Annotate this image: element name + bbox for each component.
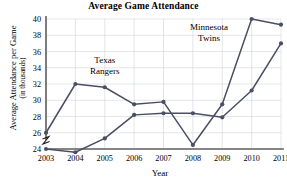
- y-tick-label: 26: [33, 129, 41, 138]
- x-tick-label: 2006: [126, 154, 142, 163]
- series-annotation-label: Twins: [198, 33, 220, 43]
- data-point-marker: [132, 102, 136, 106]
- x-tick-label: 2011: [273, 154, 287, 163]
- series-annotation-label: Rangers: [90, 66, 120, 76]
- data-point-marker: [73, 82, 77, 86]
- data-point-marker: [279, 23, 283, 27]
- chart-figure: Average Game Attendance Average Attendan…: [0, 0, 287, 188]
- x-tick-labels: 200320042005200620072008200920102011: [38, 154, 287, 163]
- y-axis-break-symbol: [43, 137, 50, 145]
- line-chart-plot: 242628303234363840 200320042005200620072…: [0, 0, 287, 188]
- data-point-marker: [161, 100, 165, 104]
- data-point-marker: [250, 88, 254, 92]
- data-point-marker: [161, 111, 165, 115]
- data-point-marker: [73, 150, 77, 154]
- x-tick-label: 2004: [67, 154, 83, 163]
- x-tick-label: 2009: [214, 154, 230, 163]
- data-point-marker: [44, 147, 48, 151]
- x-tick-label: 2003: [38, 154, 54, 163]
- data-point-marker: [103, 85, 107, 89]
- data-point-marker: [220, 102, 224, 106]
- y-tick-label: 38: [33, 31, 41, 40]
- data-point-marker: [191, 143, 195, 147]
- series-annotation-label: Minnesota: [190, 22, 228, 32]
- x-tick-label: 2010: [243, 154, 259, 163]
- data-point-marker: [250, 17, 254, 21]
- data-point-marker: [191, 111, 195, 115]
- y-tick-label: 24: [33, 145, 41, 154]
- x-tick-label: 2007: [155, 154, 171, 163]
- x-tick-label: 2005: [97, 154, 113, 163]
- y-tick-label: 28: [33, 113, 41, 122]
- y-tick-label: 34: [33, 64, 41, 73]
- data-point-marker: [132, 113, 136, 117]
- data-point-marker: [103, 136, 107, 140]
- y-tick-labels: 242628303234363840: [33, 15, 41, 154]
- x-tick-label: 2008: [185, 154, 201, 163]
- y-tick-label: 36: [33, 48, 41, 57]
- y-tick-label: 30: [33, 96, 41, 105]
- data-point-marker: [279, 41, 283, 45]
- series-annotation-label: Texas: [94, 55, 115, 65]
- y-tick-label: 32: [33, 80, 41, 89]
- data-point-marker: [44, 131, 48, 135]
- data-point-marker: [220, 115, 224, 119]
- y-tick-label: 40: [33, 15, 41, 24]
